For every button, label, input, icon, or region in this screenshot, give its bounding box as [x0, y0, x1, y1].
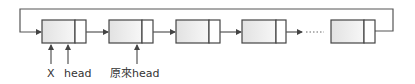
- node-3: [176, 20, 220, 43]
- circular-linked-list-diagram: X head 原來head: [0, 0, 415, 84]
- label-original-head: 原來head: [110, 67, 159, 80]
- label-head: head: [64, 67, 91, 80]
- node-4: [242, 20, 286, 43]
- node-2: [109, 20, 153, 43]
- node-5: [331, 20, 375, 43]
- label-x: X: [47, 67, 55, 80]
- node-1: [42, 20, 86, 43]
